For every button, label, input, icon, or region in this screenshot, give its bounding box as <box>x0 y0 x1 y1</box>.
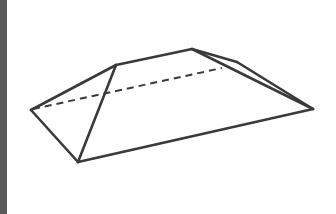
ridge-edge <box>116 49 192 65</box>
edge-bottom-to-ridge-left <box>78 65 116 162</box>
edge-left-to-ridge-left <box>31 65 116 110</box>
edge-bottom-to-right <box>78 109 313 162</box>
edge-left-to-bottom <box>31 110 78 162</box>
wedge-solid-diagram <box>0 0 336 214</box>
edge-ridge-right-to-right <box>192 49 313 109</box>
hidden-dashed-edge <box>33 68 222 109</box>
